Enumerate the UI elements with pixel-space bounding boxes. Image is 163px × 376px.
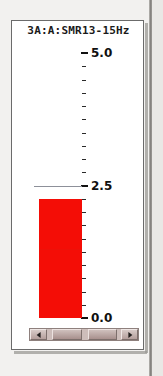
y-axis-minor-tick xyxy=(82,159,86,160)
y-axis-major-tick xyxy=(81,317,88,319)
bar-seam xyxy=(39,249,82,250)
y-axis-minor-tick xyxy=(82,199,86,200)
horizontal-scrollbar[interactable] xyxy=(29,328,139,341)
y-axis-minor-tick xyxy=(82,292,86,293)
y-axis-major-tick xyxy=(81,185,88,187)
amplitude-gauge-panel: 3A:A:SMR13-15Hz 0.02.55.0 xyxy=(11,20,144,350)
triangle-right-icon xyxy=(128,332,132,338)
scroll-right-button[interactable] xyxy=(121,329,138,340)
y-axis-minor-tick xyxy=(82,66,86,67)
y-axis-minor-tick xyxy=(82,119,86,120)
page-title: 3A:A:SMR13-15Hz xyxy=(12,24,145,37)
y-axis-minor-tick xyxy=(82,93,86,94)
y-axis-minor-tick xyxy=(82,172,86,173)
bar-gauge-plot: 0.02.55.0 xyxy=(12,43,145,328)
scrollbar-thumb-left[interactable] xyxy=(52,329,82,340)
amplitude-bar xyxy=(39,199,82,318)
panel-drop-shadow-bottom xyxy=(14,351,147,354)
y-axis-minor-tick xyxy=(82,252,86,253)
y-axis-minor-tick xyxy=(82,278,86,279)
scanned-page-background: 3A:A:SMR13-15Hz 0.02.55.0 xyxy=(0,0,163,376)
panel-drop-shadow-right xyxy=(145,23,148,353)
triangle-left-icon xyxy=(36,332,40,338)
y-axis-minor-tick xyxy=(82,106,86,107)
scroll-left-button[interactable] xyxy=(30,329,47,340)
y-axis-minor-tick xyxy=(82,239,86,240)
y-axis-minor-tick xyxy=(82,212,86,213)
scan-margin xyxy=(152,0,163,376)
y-axis-tick-label: 2.5 xyxy=(91,180,112,192)
y-axis-minor-tick xyxy=(82,133,86,134)
y-axis-minor-tick xyxy=(82,265,86,266)
y-axis-tick-label: 5.0 xyxy=(91,47,112,59)
y-axis-minor-tick xyxy=(82,146,86,147)
y-axis-major-tick xyxy=(81,52,88,54)
scrollbar-thumb-right[interactable] xyxy=(88,329,117,340)
threshold-line xyxy=(34,186,82,187)
y-axis-minor-tick xyxy=(82,80,86,81)
y-axis-minor-tick xyxy=(82,305,86,306)
scrollbar-track[interactable] xyxy=(47,329,121,340)
y-axis-tick-label: 0.0 xyxy=(91,312,112,324)
y-axis-minor-tick xyxy=(82,225,86,226)
